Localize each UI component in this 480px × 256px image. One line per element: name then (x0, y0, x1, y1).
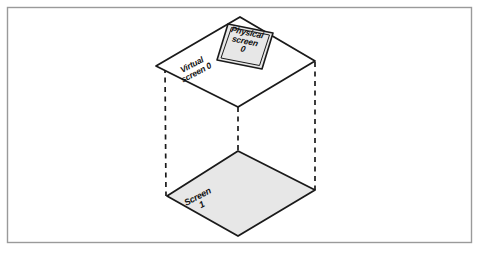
figure-root: Physical screen 0 Virtual screen 0 Scree… (0, 0, 480, 256)
figure-diagram (0, 0, 480, 256)
